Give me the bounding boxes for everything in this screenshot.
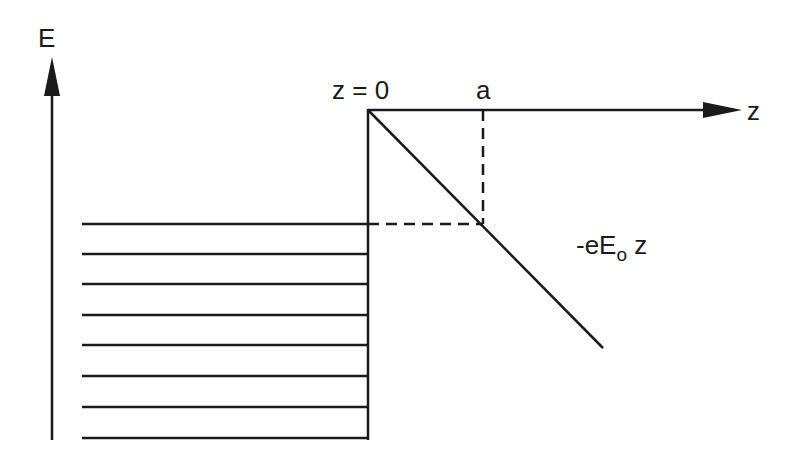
potential-line	[368, 110, 603, 348]
energy-axis-arrowhead-icon	[44, 57, 60, 96]
energy-levels	[82, 224, 368, 438]
diagram-canvas: E z z = 0 a -eEo z	[0, 0, 801, 466]
origin-label: z = 0	[332, 75, 389, 105]
potential-label-subscript: o	[616, 244, 627, 265]
potential-label-suffix: z	[627, 230, 647, 260]
potential-label-prefix: -eE	[576, 230, 616, 260]
a-label: a	[476, 75, 491, 105]
potential-label: -eEo z	[576, 230, 647, 265]
z-axis-label: z	[747, 96, 760, 126]
z-axis-arrowhead-icon	[703, 102, 742, 118]
energy-axis-label: E	[38, 23, 55, 53]
